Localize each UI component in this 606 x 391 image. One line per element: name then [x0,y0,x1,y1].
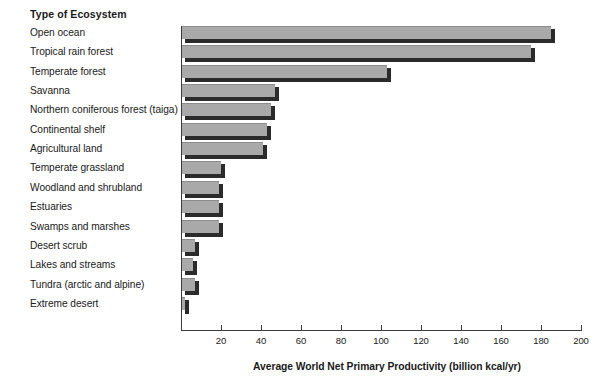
x-axis-tick [501,325,502,331]
category-label: Agricultural land [30,143,102,155]
bar [181,65,391,82]
bar-face [181,45,531,58]
bar-face [181,123,267,136]
bar [181,239,199,256]
bar-shadow-bottom [185,252,199,256]
category-label: Savanna [30,85,70,97]
bar-shadow-bottom [185,213,223,217]
x-axis-tick-label: 20 [201,335,241,346]
bar [181,103,275,120]
category-label: Woodland and shrubland [30,182,142,194]
bar-face [181,103,271,116]
bar-face [181,26,551,39]
x-axis-tick-label: 200 [561,335,601,346]
bar-face [181,200,219,213]
x-axis-tick-label: 120 [401,335,441,346]
category-label: Lakes and streams [30,259,115,271]
bar-shadow-bottom [185,78,391,82]
category-label: Temperate grassland [30,162,124,174]
bar [181,45,535,62]
x-axis-tick-label: 40 [241,335,281,346]
bar-shadow-bottom [185,174,225,178]
bar-shadow-bottom [185,58,535,62]
bar [181,142,267,159]
bar [181,161,225,178]
category-label: Extreme desert [30,298,98,310]
bar-shadow-bottom [185,39,555,43]
bar-shadow-bottom [185,116,275,120]
x-axis-tick-label: 100 [361,335,401,346]
bar-face [181,239,195,252]
bar-shadow-bottom [185,194,223,198]
bar [181,220,223,237]
bar-shadow-bottom [185,155,267,159]
category-label: Open ocean [30,27,85,39]
category-label: Tundra (arctic and alpine) [30,279,144,291]
horizontal-bar-chart: Type of Ecosystem Open oceanTropical rai… [0,0,606,391]
category-label: Northern coniferous forest (taiga) [30,104,178,116]
category-label: Desert scrub [30,240,87,252]
bar-face [181,84,275,97]
bar-face [181,161,221,174]
category-label: Tropical rain forest [30,46,113,58]
bar [181,181,223,198]
bar-shadow-bottom [185,136,271,140]
bar-shadow-bottom [185,233,223,237]
bar-face [181,181,219,194]
x-axis-tick [581,325,582,331]
plot-area [181,26,581,330]
x-axis-tick-label: 80 [321,335,361,346]
bar-face [181,278,195,291]
y-axis-line [181,26,182,331]
x-axis-tick [381,325,382,331]
bar-face [181,142,263,155]
bar [181,84,279,101]
category-label: Estuaries [30,201,72,213]
bar [181,278,199,295]
x-axis-tick-label: 140 [441,335,481,346]
x-axis-tick [341,325,342,331]
x-axis-tick-label: 60 [281,335,321,346]
x-axis-tick [541,325,542,331]
bar [181,26,555,43]
bar-face [181,65,387,78]
bar-shadow-bottom [185,271,197,275]
category-column-header: Type of Ecosystem [30,8,127,20]
category-label: Continental shelf [30,124,105,136]
bar-shadow-bottom [185,291,199,295]
x-axis-tick [261,325,262,331]
x-axis-tick-label: 160 [481,335,521,346]
x-axis-tick [461,325,462,331]
category-label: Swamps and marshes [30,221,130,233]
bar [181,297,189,314]
bar-shadow-bottom [185,97,279,101]
bar-shadow-bottom [185,310,189,314]
x-axis-tick [221,325,222,331]
x-axis-tick-label: 180 [521,335,561,346]
bar [181,123,271,140]
bar [181,258,197,275]
bar-face [181,258,193,271]
x-axis-tick [301,325,302,331]
bar [181,200,223,217]
x-axis-title: Average World Net Primary Productivity (… [181,361,593,372]
category-label: Temperate forest [30,66,106,78]
x-axis-tick [421,325,422,331]
bar-face [181,220,219,233]
